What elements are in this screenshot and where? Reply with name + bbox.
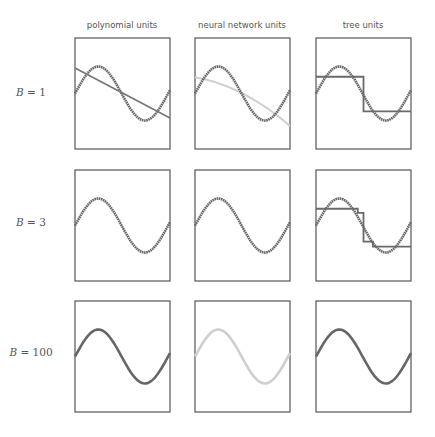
- figure-grid: [0, 0, 435, 437]
- panel-frame: [195, 170, 290, 281]
- panel-frame: [75, 170, 170, 281]
